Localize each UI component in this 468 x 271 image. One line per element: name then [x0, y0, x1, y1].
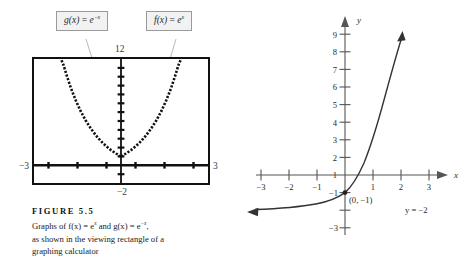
caption-line1-c: , [146, 221, 148, 231]
y-tick-6: 6 [329, 82, 341, 92]
curve-arrowhead-right [397, 31, 406, 42]
x-tick-1: 1 [367, 182, 379, 192]
curve-arrowhead-left [247, 208, 259, 216]
x-tick-neg-1: −1 [309, 182, 325, 192]
x-axis-label: x [454, 170, 458, 180]
y-tick-1: 1 [329, 170, 341, 180]
viewing-rect-ymin-label: −2 [117, 187, 127, 197]
viewing-rect-xmax-label: 3 [213, 161, 218, 171]
figure-5-6: y x 9 8 7 6 5 4 3 2 1 −1 −3 −3 −2 −1 1 2… [234, 0, 468, 271]
y-tick-9: 9 [329, 30, 341, 40]
asymptote-label: y = −2 [405, 205, 428, 215]
x-tick-3: 3 [423, 182, 435, 192]
y-tick-8: 8 [329, 47, 341, 57]
y-tick-4: 4 [329, 118, 341, 128]
figure-5-5-caption-body: Graphs of f(x) = ex and g(x) = e−x, as s… [32, 220, 222, 257]
curve-f-exp [121, 59, 181, 156]
y-tick-5: 5 [329, 100, 341, 110]
figure-5-5: g(x) = e−x f(x) = ex [0, 0, 234, 271]
y-tick-3: 3 [329, 135, 341, 145]
calculator-screen-plot [34, 59, 208, 183]
textbook-figure-page: g(x) = e−x f(x) = ex [0, 0, 468, 271]
y-axis-arrowhead [341, 16, 349, 27]
calculator-viewing-rectangle [32, 57, 210, 185]
curve-F-exp-minus-2 [255, 40, 401, 210]
caption-line3: graphing calculator [32, 245, 222, 257]
x-axis-arrowhead [437, 171, 448, 179]
y-tick-neg-1: −1 [326, 188, 341, 198]
y-axis-label: y [357, 15, 361, 25]
figure-5-5-caption: FIGURE 5.5 Graphs of f(x) = ex and g(x) … [32, 205, 222, 258]
figure-5-5-title: FIGURE 5.5 [32, 205, 222, 217]
y-tick-7: 7 [329, 65, 341, 75]
y-intercept-point [343, 190, 348, 195]
viewing-rect-xmin-label: −3 [19, 161, 29, 171]
caption-line2: as shown in the viewing rectangle of a [32, 233, 222, 245]
curve-g-exp [61, 59, 121, 156]
y-tick-2: 2 [329, 153, 341, 163]
viewing-rect-ymax-label: 12 [115, 44, 125, 54]
x-tick-neg-3: −3 [253, 182, 269, 192]
y-intercept-label: (0, −1) [349, 195, 372, 205]
y-tick-neg-3: −3 [326, 223, 341, 233]
x-tick-neg-2: −2 [281, 182, 297, 192]
caption-line1-a: Graphs of f(x) = e [32, 221, 94, 231]
x-tick-2: 2 [395, 182, 407, 192]
caption-line1-b: and g(x) = e [97, 221, 141, 231]
